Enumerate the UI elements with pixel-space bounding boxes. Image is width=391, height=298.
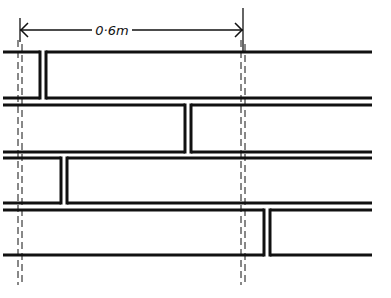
board-layout-diagram: 0·6m: [0, 0, 391, 298]
boards-group: [3, 51, 372, 257]
board-2: [3, 104, 372, 154]
dimension-label: 0·6m: [95, 23, 128, 38]
board-4: [3, 209, 372, 257]
dimension-annotation: 0·6m: [20, 8, 243, 52]
left-support-guide: [18, 40, 22, 285]
board-3: [3, 157, 372, 205]
right-support-guide: [241, 40, 245, 285]
board-1: [3, 51, 372, 100]
support-guides: [18, 40, 245, 285]
